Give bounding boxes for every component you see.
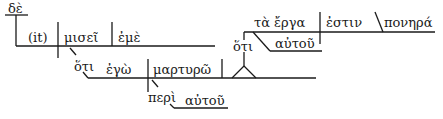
- word-misei: μισεῖ: [64, 31, 98, 44]
- pedestal-right: [244, 66, 256, 78]
- word-autou-2: αὐτοῦ: [275, 37, 315, 50]
- word-hoti-2: ὅτι: [233, 40, 253, 53]
- word-it: (it): [28, 31, 48, 44]
- hoti1-slant: [70, 48, 76, 55]
- word-ponera: πονηρά: [384, 16, 432, 29]
- word-ta-erga: τὰ ἔργα: [254, 16, 305, 29]
- word-peri: περὶ: [148, 91, 176, 104]
- word-ego: ἐγὼ: [106, 63, 131, 76]
- word-estin: ἐστιν: [326, 16, 362, 29]
- word-autou-1: αὐτοῦ: [185, 94, 225, 107]
- predicate-slant: [375, 12, 383, 32]
- word-de: δὲ: [8, 2, 23, 15]
- autou2-slant: [253, 32, 270, 51]
- word-eme: ἐμὲ: [118, 31, 140, 44]
- word-hoti-1: ὅτι: [74, 60, 94, 73]
- pedestal-left: [232, 66, 244, 78]
- word-martyro: μαρτυρῶ: [153, 63, 211, 76]
- peri-slant-top: [152, 80, 158, 87]
